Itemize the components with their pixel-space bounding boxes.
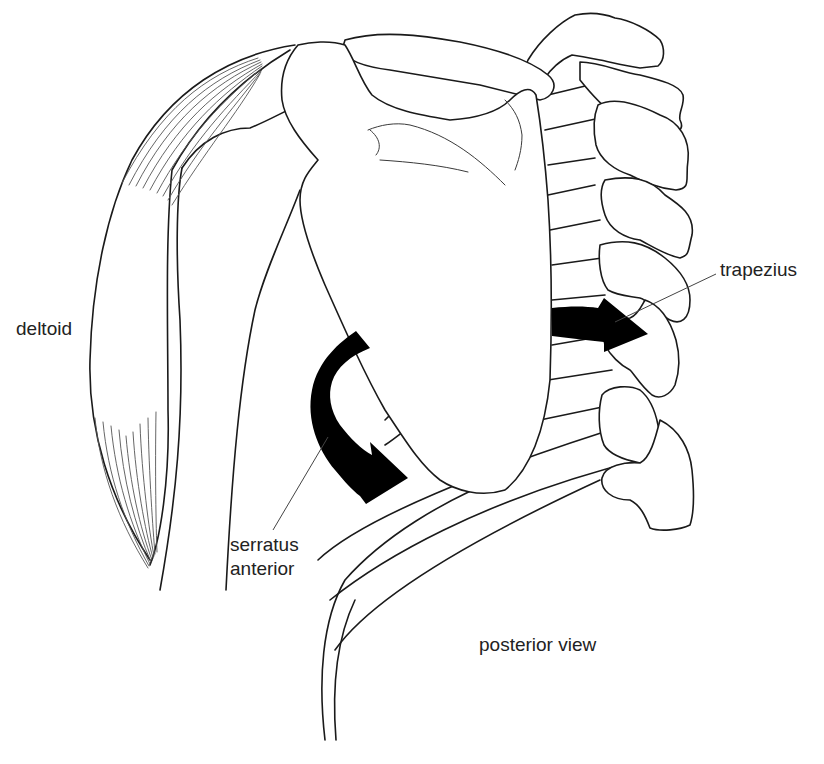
serratus-anterior-label-line1: serratus bbox=[230, 533, 299, 556]
deltoid-label: deltoid bbox=[16, 317, 72, 340]
humerus bbox=[156, 105, 300, 590]
serratus-leader-line bbox=[273, 437, 328, 530]
trapezius-label: trapezius bbox=[720, 258, 797, 281]
deltoid-muscle bbox=[90, 45, 295, 568]
shoulder-anatomy-diagram bbox=[0, 0, 824, 764]
view-caption: posterior view bbox=[479, 633, 596, 656]
serratus-anterior-label-line2: anterior bbox=[230, 557, 294, 580]
